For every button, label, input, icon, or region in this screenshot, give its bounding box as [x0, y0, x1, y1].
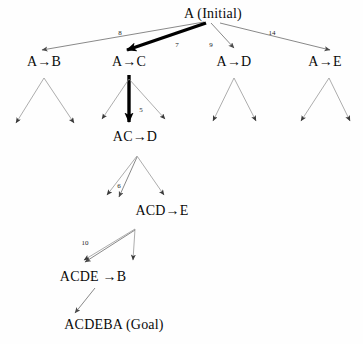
search-tree-diagram: A (Initial) A→B A→C A→D A→E AC→D ACD→E A…: [0, 0, 363, 344]
node-a-to-d[interactable]: A→D: [217, 55, 252, 69]
node-a-to-e[interactable]: A→E: [308, 55, 341, 69]
edge-weight-root-ae: 14: [269, 29, 276, 37]
leaf-branch-ad-left: [213, 78, 234, 121]
node-a-to-b[interactable]: A→B: [27, 55, 61, 69]
node-a-to-c[interactable]: A→C: [112, 55, 146, 69]
leaf-branch-acde-right: [133, 229, 135, 260]
edge-weight-acde-acdeb: 10: [82, 239, 89, 247]
leaf-branch-ac-right: [129, 79, 165, 119]
root-edges: [42, 22, 330, 50]
node-ac-to-d[interactable]: AC→D: [113, 130, 157, 144]
edge-weight-root-ab: 8: [118, 29, 122, 37]
leaf-branch-acd-right: [137, 156, 164, 195]
edge-weight-ac-acd: 5: [139, 106, 143, 114]
edge-acde-to-acdeb: [85, 230, 135, 262]
edges-layer: [0, 0, 363, 344]
leaf-branch-ac-left: [102, 79, 129, 119]
node-acde-to-b[interactable]: ACDE →B: [60, 270, 126, 284]
node-acd-to-e[interactable]: ACD→E: [135, 204, 188, 218]
leaf-branch-ab-right: [44, 78, 74, 123]
edge-root-to-ab: [42, 22, 204, 50]
edge-root-to-ac: [127, 23, 206, 50]
edge-acdeb-to-goal: [75, 288, 95, 313]
edge-weight-root-ad: 9: [209, 41, 213, 49]
edge-weight-root-ac: 7: [175, 41, 179, 49]
leaf-branch-acd-left: [107, 156, 137, 195]
edge-root-to-ad: [211, 23, 234, 48]
leaf-branch-ab-left: [16, 78, 44, 123]
leaf-branch-ae-left: [301, 78, 329, 121]
edge-acd-to-acde: [119, 157, 137, 197]
leaf-branches-layer: [16, 78, 350, 260]
leaf-branch-ad-right: [234, 78, 256, 121]
leaf-branch-ae-right: [329, 78, 350, 121]
edge-weight-acd-acde: 6: [117, 182, 121, 190]
node-goal[interactable]: ACDEBA (Goal): [64, 318, 163, 332]
node-root[interactable]: A (Initial): [184, 7, 242, 21]
leaf-branch-acde-left: [84, 229, 135, 260]
